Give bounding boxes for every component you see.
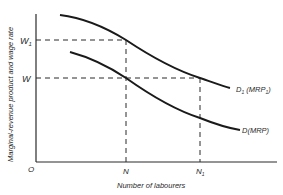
origin-label: O (28, 165, 34, 174)
d1-mrp1-label: D1 (MRP1) (236, 85, 271, 95)
y-axis-title: Marginal-revenue product and wage rate (6, 27, 15, 162)
x-axis-title: Number of labourers (117, 181, 186, 190)
w1-label: W1 (20, 36, 32, 47)
d1-mrp1-curve (60, 15, 230, 88)
n-label: N (123, 167, 129, 176)
reference-lines (36, 40, 200, 162)
d-mrp-label: D(MRP) (242, 126, 270, 135)
n1-label: N1 (196, 167, 205, 177)
d-mrp-curve (70, 52, 240, 130)
w-label: W (22, 74, 32, 84)
chart-canvas: W1 W O N N1 D1 (MRP1) D(MRP) Number of l… (0, 0, 283, 195)
